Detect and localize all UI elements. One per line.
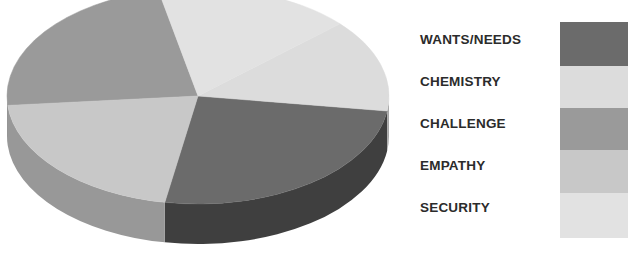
legend-swatch-wants-needs — [560, 22, 628, 66]
legend-swatch-empathy — [560, 150, 628, 193]
pie-chart-svg — [0, 0, 400, 270]
legend-label-list: WANTS/NEEDS CHEMISTRY CHALLENGE EMPATHY … — [412, 16, 552, 238]
pie-chart-figure: WANTS/NEEDS CHEMISTRY CHALLENGE EMPATHY … — [0, 0, 628, 270]
legend-label-challenge: CHALLENGE — [420, 116, 506, 131]
legend-label-chemistry: CHEMISTRY — [420, 74, 501, 89]
chart-legend: WANTS/NEEDS CHEMISTRY CHALLENGE EMPATHY … — [412, 16, 628, 238]
legend-swatch-list — [560, 22, 628, 238]
pie-chart-area — [0, 0, 400, 270]
legend-swatch-chemistry — [560, 66, 628, 108]
legend-swatch-security — [560, 193, 628, 238]
legend-swatch-challenge — [560, 108, 628, 150]
legend-label-wants-needs: WANTS/NEEDS — [420, 32, 521, 47]
legend-label-security: SECURITY — [420, 200, 490, 215]
pie-top-surface — [7, 0, 389, 204]
legend-label-empathy: EMPATHY — [420, 158, 485, 173]
